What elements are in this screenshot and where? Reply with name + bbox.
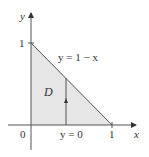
curve-label: y = 1 − x	[58, 51, 98, 63]
y-tick-label: 1	[19, 37, 25, 49]
x-tick-label: 1	[109, 128, 115, 140]
diagram-canvas: y x 1 1 0 y = 1 − x y = 0 D	[0, 0, 149, 157]
y-axis-label: y	[19, 10, 25, 22]
x-axis-label: x	[133, 128, 139, 140]
region-label: D	[43, 85, 53, 99]
origin-label: 0	[20, 128, 26, 140]
bottom-boundary-label: y = 0	[60, 128, 83, 140]
